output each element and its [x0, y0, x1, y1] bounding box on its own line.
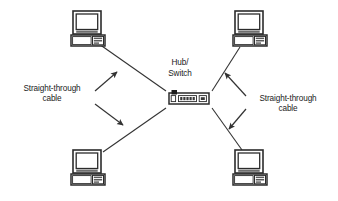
annotation-right-label: Straight-through cable [249, 94, 327, 114]
computer-top-left[interactable] [71, 11, 105, 46]
cable-top-left [99, 44, 166, 91]
hub-switch-label-line2: Switch [157, 69, 203, 80]
annotation-left-line2: cable [13, 94, 91, 104]
arrow-up-left-icon [225, 73, 246, 96]
cable-bottom-left [103, 108, 166, 152]
arrow-down-right-icon [95, 104, 123, 125]
annotation-left-line1: Straight-through [13, 84, 91, 94]
annotation-right-line2: cable [249, 104, 327, 114]
hub-switch-label-line1: Hub/ [157, 58, 203, 69]
computer-bottom-left[interactable] [71, 150, 105, 185]
arrow-up-right-icon [95, 72, 117, 91]
computer-bottom-right[interactable] [233, 150, 267, 185]
cable-bottom-right [212, 108, 242, 150]
hub-switch-icon[interactable] [169, 90, 209, 104]
hub-switch-label: Hub/ Switch [157, 58, 203, 79]
annotation-right-line1: Straight-through [249, 94, 327, 104]
annotation-left-label: Straight-through cable [13, 84, 91, 104]
network-diagram: Hub/ Switch Straight-through cable Strai… [0, 0, 338, 201]
computer-top-right[interactable] [233, 11, 267, 46]
arrow-down-left-icon [229, 109, 246, 129]
